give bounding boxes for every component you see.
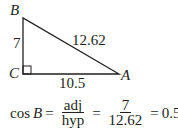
angle-variable: B — [33, 105, 42, 122]
side-length-ca: 10.5 — [59, 76, 85, 91]
cosine-equation: cos B = adj hyp = 7 12.62 = 0.5547 — [10, 98, 178, 128]
cos-function: cos — [10, 105, 30, 122]
equals-sign-3: = — [150, 105, 158, 122]
equals-sign-1: = — [45, 105, 53, 122]
denominator-hyp: hyp — [60, 113, 87, 128]
right-angle-marker — [23, 66, 31, 74]
denominator-value: 12.62 — [107, 113, 145, 128]
side-length-hypotenuse: 12.62 — [72, 33, 106, 48]
numerator-adj: adj — [62, 98, 84, 113]
vertex-label-a: A — [121, 68, 130, 83]
fraction-adj-hyp: adj hyp — [60, 98, 87, 128]
fraction-values: 7 12.62 — [107, 98, 145, 128]
vertex-label-b: B — [10, 3, 19, 18]
numerator-value: 7 — [120, 98, 132, 113]
side-length-bc: 7 — [13, 36, 21, 51]
result-value: 0.5547 — [162, 105, 178, 122]
vertex-label-c: C — [9, 66, 19, 81]
equals-sign-2: = — [92, 105, 100, 122]
